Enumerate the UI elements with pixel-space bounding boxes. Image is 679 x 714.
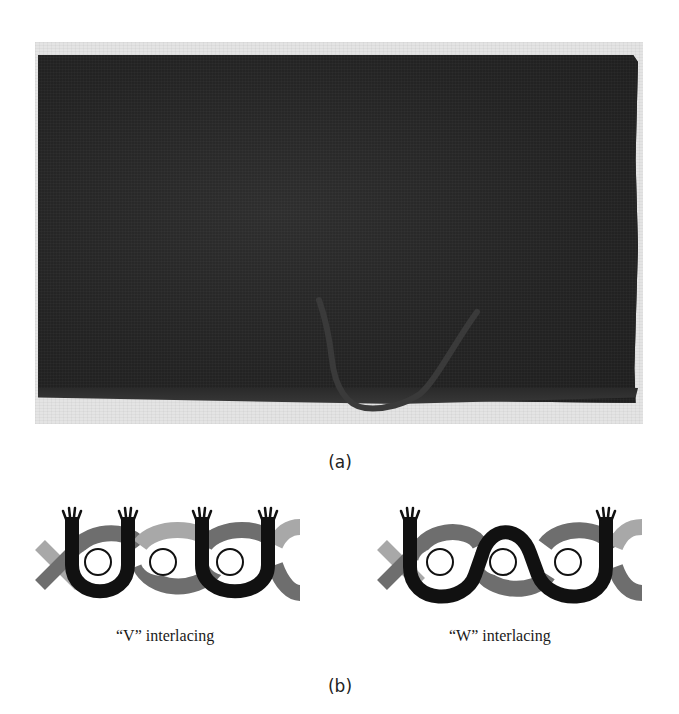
w-interlacing-diagram: [370, 505, 650, 615]
caption-w-interlacing: “W” interlacing: [449, 627, 551, 645]
panel-label-b: (b): [320, 676, 360, 696]
caption-v-interlacing: “V” interlacing: [116, 627, 214, 645]
panel-label-a: (a): [320, 452, 360, 472]
textile-photo: [35, 42, 643, 424]
hanging-cord: [35, 42, 643, 424]
v-interlacing-diagram: [30, 505, 310, 615]
